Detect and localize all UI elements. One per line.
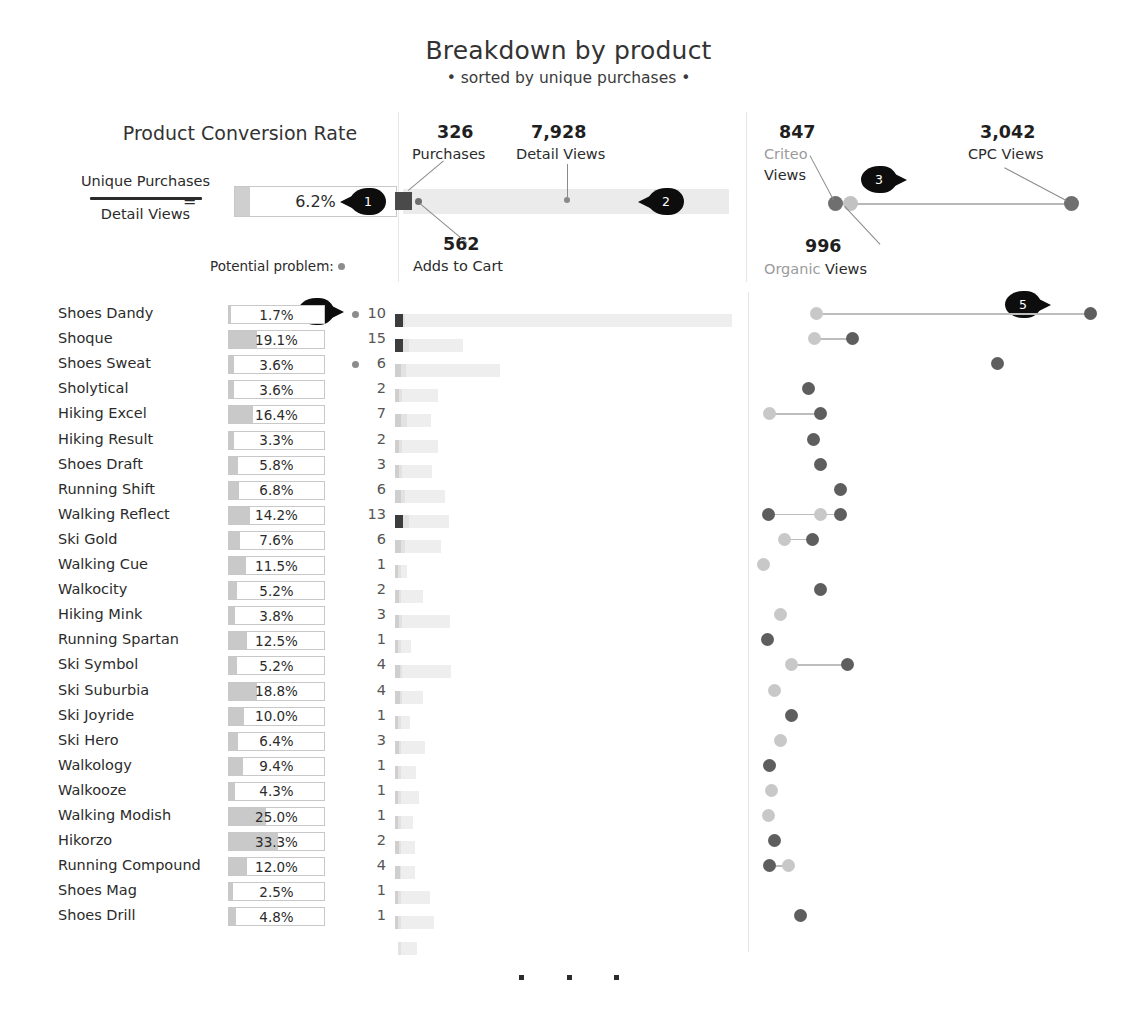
row-product-name: Ski Hero [58,732,119,748]
row-cpc-views-dot[interactable] [761,633,774,646]
row-conversion-rate-box[interactable]: 4.3% [228,782,325,801]
row-product-name: Shoes Drill [58,907,136,923]
row-conversion-rate-box[interactable]: 1.7% [228,305,325,324]
row-conversion-rate-box[interactable]: 5.2% [228,656,325,675]
row-cpc-views-dot[interactable] [794,909,807,922]
row-organic-views-dot[interactable] [785,658,798,671]
row-purchases-marker [395,465,399,478]
row-purchases-marker [395,891,398,904]
row-cpc-views-dot[interactable] [814,458,827,471]
row-product-name: Sholytical [58,380,128,396]
row-organic-views-dot[interactable] [763,407,776,420]
row-purchases-marker [395,665,400,678]
row-organic-views-dot[interactable] [814,508,827,521]
row-detail-views-bar [401,364,500,377]
row-conversion-rate-box[interactable]: 2.5% [228,882,325,901]
row-detail-views-bar [401,389,438,402]
row-organic-views-dot[interactable] [765,784,778,797]
row-conversion-rate-box[interactable]: 7.6% [228,531,325,550]
row-purchases-marker [395,691,400,704]
row-conversion-rate-box[interactable]: 10.0% [228,707,325,726]
row-cpc-views-dot[interactable] [763,759,776,772]
row-product-name: Walking Cue [58,556,148,572]
row-purchases-count: 3 [358,732,386,748]
row-dot-connector [816,313,1090,315]
row-rate-value: 10.0% [229,708,324,725]
row-purchases-marker [395,440,399,453]
row-rate-value: 3.6% [229,356,324,373]
product-rows: Shoes Dandy1.7%10Shoque19.1%15Shoes Swea… [0,0,1137,1012]
row-conversion-rate-box[interactable]: 19.1% [228,330,325,349]
row-cpc-views-dot[interactable] [762,508,775,521]
row-detail-views-bar [401,540,441,553]
row-cpc-views-dot[interactable] [763,859,776,872]
ellipsis-dot-icon [614,975,619,980]
row-purchases-marker [395,716,398,729]
row-purchases-marker [395,741,399,754]
row-conversion-rate-box[interactable]: 3.3% [228,431,325,450]
row-cpc-views-dot[interactable] [846,332,859,345]
row-product-name: Shoes Dandy [58,305,153,321]
row-cpc-views-dot[interactable] [814,407,827,420]
row-cpc-views-dot[interactable] [841,658,854,671]
row-cpc-views-dot[interactable] [807,433,820,446]
row-conversion-rate-box[interactable]: 6.4% [228,732,325,751]
row-cpc-views-dot[interactable] [768,834,781,847]
row-conversion-rate-box[interactable]: 3.6% [228,380,325,399]
row-conversion-rate-box[interactable]: 33.3% [228,832,325,851]
row-cpc-views-dot[interactable] [814,583,827,596]
row-purchases-marker [395,515,403,528]
row-product-name: Shoes Draft [58,456,143,472]
row-cpc-views-dot[interactable] [806,533,819,546]
row-organic-views-dot[interactable] [782,859,795,872]
row-detail-views-bar [401,440,438,453]
row-cpc-views-dot[interactable] [834,508,847,521]
row-conversion-rate-box[interactable]: 5.2% [228,581,325,600]
row-conversion-rate-box[interactable]: 12.5% [228,631,325,650]
row-adds-to-cart-bar [398,716,401,729]
row-conversion-rate-box[interactable]: 6.8% [228,481,325,500]
row-purchases-count: 1 [358,807,386,823]
row-conversion-rate-box[interactable]: 9.4% [228,757,325,776]
row-conversion-rate-box[interactable]: 16.4% [228,405,325,424]
row-cpc-views-dot[interactable] [785,709,798,722]
row-rate-value: 7.6% [229,532,324,549]
row-organic-views-dot[interactable] [762,809,775,822]
row-cpc-views-dot[interactable] [802,382,815,395]
more-rows-ellipsis[interactable] [519,975,619,980]
row-conversion-rate-box[interactable]: 3.8% [228,606,325,625]
row-conversion-rate-box[interactable]: 12.0% [228,857,325,876]
row-organic-views-dot[interactable] [774,608,787,621]
row-conversion-rate-box[interactable]: 18.8% [228,682,325,701]
row-conversion-rate-box[interactable]: 5.8% [228,456,325,475]
row-conversion-rate-box[interactable]: 14.2% [228,506,325,525]
row-purchases-marker [395,339,403,352]
row-product-name: Walkology [58,757,132,773]
row-conversion-rate-box[interactable]: 11.5% [228,556,325,575]
row-organic-views-dot[interactable] [810,307,823,320]
row-organic-views-dot[interactable] [778,533,791,546]
row-rate-value: 5.2% [229,657,324,674]
row-organic-views-dot[interactable] [808,332,821,345]
row-detail-views-bar [401,791,419,804]
row-purchases-count: 4 [358,857,386,873]
row-cpc-views-dot[interactable] [1084,307,1097,320]
row-conversion-rate-box[interactable]: 3.6% [228,355,325,374]
row-organic-views-dot[interactable] [768,684,781,697]
row-purchases-count: 3 [358,606,386,622]
row-detail-views-bar [401,590,423,603]
row-adds-to-cart-bar [398,791,401,804]
row-conversion-rate-box[interactable]: 4.8% [228,907,325,926]
ellipsis-dot-icon [519,975,524,980]
row-cpc-views-dot[interactable] [834,483,847,496]
row-purchases-count: 1 [358,556,386,572]
row-rate-value: 16.4% [229,406,324,423]
row-organic-views-dot[interactable] [774,734,787,747]
row-conversion-rate-box[interactable]: 25.0% [228,807,325,826]
row-purchases-count: 2 [358,380,386,396]
row-organic-views-dot[interactable] [757,558,770,571]
row-purchases-count: 6 [358,531,386,547]
row-cpc-views-dot[interactable] [991,357,1004,370]
row-product-name: Ski Gold [58,531,118,547]
row-detail-views-bar [401,942,417,955]
